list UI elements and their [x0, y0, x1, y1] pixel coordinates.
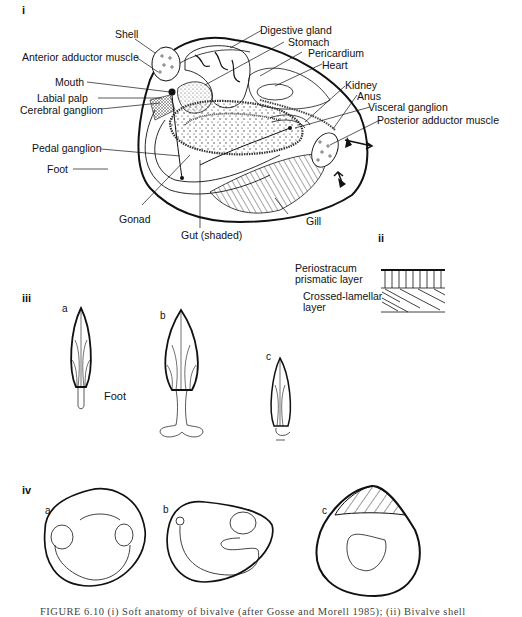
- label-visceral-ganglion: Visceral ganglion: [368, 101, 448, 113]
- label-layer: layer: [303, 301, 326, 313]
- anterior-adductor-shape: [152, 47, 180, 81]
- label-iii-foot: Foot: [104, 390, 126, 402]
- label-pericardium: Pericardium: [308, 47, 364, 59]
- label-iii-a: a: [62, 303, 68, 314]
- gill-shape: [210, 154, 326, 213]
- burrowing-sequence-drawing: [71, 308, 290, 440]
- label-iii-b: b: [160, 310, 166, 321]
- label-prismatic-layer: prismatic layer: [295, 273, 363, 285]
- panel-label-iv: iv: [22, 484, 31, 496]
- burrow-stage-b: [160, 310, 203, 437]
- label-posterior-adductor-muscle: Posterior adductor muscle: [377, 114, 499, 126]
- figure-caption: FIGURE 6.10 (i) Soft anatomy of bivalve …: [40, 606, 466, 617]
- shell-a: [45, 489, 146, 586]
- shell-layer-diagram: [381, 270, 445, 312]
- shell-b: [167, 502, 273, 582]
- label-heart: Heart: [322, 59, 348, 71]
- label-shell: Shell: [115, 28, 138, 40]
- label-iv-a: a: [45, 505, 51, 516]
- shell-outlines-drawing: [45, 486, 420, 596]
- label-iv-b: b: [163, 504, 169, 515]
- label-digestive-gland: Digestive gland: [260, 24, 332, 36]
- label-mouth: Mouth: [55, 76, 84, 88]
- panel-label-i: i: [22, 4, 25, 16]
- burrow-stage-c: [271, 358, 290, 440]
- shell-c: [317, 486, 420, 596]
- label-cerebral-ganglion: Cerebral ganglion: [20, 104, 103, 116]
- label-gut: Gut (shaded): [181, 229, 242, 241]
- label-iii-c: c: [266, 351, 271, 362]
- label-labial-palp: Labial palp: [37, 92, 88, 104]
- panel-label-iii: iii: [22, 292, 31, 304]
- label-gonad: Gonad: [119, 213, 151, 225]
- label-iv-c: c: [322, 505, 327, 516]
- label-foot: Foot: [47, 163, 68, 175]
- label-anterior-adductor-muscle: Anterior adductor muscle: [22, 51, 139, 63]
- panel-label-ii: ii: [378, 232, 384, 244]
- burrow-stage-a: [71, 308, 91, 409]
- label-gill: Gill: [306, 215, 321, 227]
- label-pedal-ganglion: Pedal ganglion: [32, 142, 101, 154]
